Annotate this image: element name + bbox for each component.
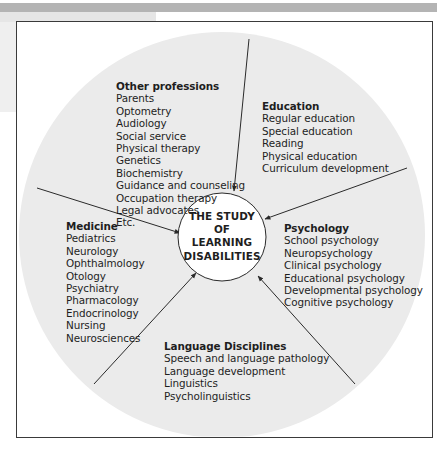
group-medicine: Medicine Pediatrics Neurology Ophthalmol…	[66, 220, 144, 344]
list-item: Ophthalmology	[66, 257, 144, 269]
group-title: Education	[262, 100, 389, 112]
list-item: Parents	[116, 92, 245, 104]
list-item: Linguistics	[164, 377, 329, 389]
center-line: DISABILITIES	[182, 250, 262, 263]
list-item: Psycholinguistics	[164, 390, 329, 402]
center-line: LEARNING	[182, 236, 262, 249]
list-item: Language development	[164, 365, 329, 377]
list-item: Developmental psychology	[284, 284, 423, 296]
list-item: Physical education	[262, 150, 389, 162]
list-item: Pharmacology	[66, 294, 144, 306]
list-item: Special education	[262, 125, 389, 137]
group-other-professions: Other professions Parents Optometry Audi…	[116, 80, 245, 229]
list-item: Cognitive psychology	[284, 296, 423, 308]
list-item: Neurosciences	[66, 332, 144, 344]
list-item: Guidance and counseling	[116, 179, 245, 191]
list-item: Pediatrics	[66, 232, 144, 244]
list-item: Psychiatry	[66, 282, 144, 294]
group-title: Psychology	[284, 222, 423, 234]
list-item: Reading	[262, 137, 389, 149]
list-item: Physical therapy	[116, 142, 245, 154]
group-title: Language Disciplines	[164, 340, 329, 352]
list-item: Genetics	[116, 154, 245, 166]
list-item: Clinical psychology	[284, 259, 423, 271]
group-title: Other professions	[116, 80, 245, 92]
list-item: Regular education	[262, 112, 389, 124]
list-item: Biochemistry	[116, 167, 245, 179]
list-item: Nursing	[66, 319, 144, 331]
list-item: Otology	[66, 270, 144, 282]
group-psychology: Psychology School psychology Neuropsycho…	[284, 222, 423, 309]
group-language-disciplines: Language Disciplines Speech and language…	[164, 340, 329, 402]
list-item: Neuropsychology	[284, 247, 423, 259]
group-education: Education Regular education Special educ…	[262, 100, 389, 174]
list-item: Optometry	[116, 105, 245, 117]
list-item: School psychology	[284, 234, 423, 246]
list-item: Audiology	[116, 117, 245, 129]
list-item: Educational psychology	[284, 272, 423, 284]
list-item: Curriculum development	[262, 162, 389, 174]
group-title: Medicine	[66, 220, 144, 232]
list-item: Occupation therapy	[116, 192, 245, 204]
list-item: Social service	[116, 130, 245, 142]
list-item: Speech and language pathology	[164, 352, 329, 364]
list-item: Legal advocates	[116, 204, 245, 216]
list-item: Neurology	[66, 245, 144, 257]
list-item: Endocrinology	[66, 307, 144, 319]
